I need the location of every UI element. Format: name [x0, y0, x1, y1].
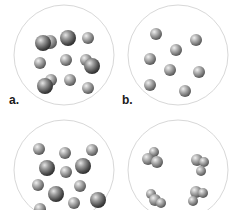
panel-label-a: a.: [9, 94, 19, 106]
atom-sphere: [193, 66, 205, 78]
atom-particle: [34, 57, 46, 69]
atom-sphere: [33, 143, 45, 155]
atom-sphere: [60, 166, 72, 178]
atom-particle: [193, 66, 205, 78]
particle-diagram-figure: [0, 0, 230, 210]
molecule-particle: [146, 189, 166, 208]
atom-sphere: [60, 30, 76, 46]
atom-sphere: [170, 44, 182, 56]
atom-sphere: [188, 196, 198, 206]
atom-sphere: [144, 79, 156, 91]
atom-sphere: [34, 203, 46, 210]
atom-large-particle: [60, 30, 76, 46]
atom-large-particle: [90, 192, 106, 208]
atom-sphere: [68, 197, 80, 209]
container-circle: [128, 120, 228, 210]
atom-particle: [179, 85, 191, 97]
atom-sphere: [37, 78, 53, 94]
atom-large-particle: [75, 158, 91, 174]
atom-particle: [82, 82, 94, 94]
atom-sphere: [86, 144, 98, 156]
atom-particle: [150, 28, 162, 40]
molecule-particle: [191, 154, 209, 176]
atom-sphere: [75, 158, 91, 174]
atom-particle: [64, 74, 76, 86]
panel-c: [14, 120, 114, 210]
atom-sphere: [164, 64, 176, 76]
atom-sphere: [64, 74, 76, 86]
panel-label-b: b.: [122, 94, 133, 106]
atom-sphere: [39, 160, 55, 176]
atom-particle: [74, 180, 86, 192]
diatomic-particle: [35, 35, 57, 51]
atom-particle: [60, 54, 72, 66]
atom-particle: [82, 32, 94, 44]
atom-sphere: [198, 188, 208, 198]
atom-particle: [34, 203, 46, 210]
atom-sphere: [59, 147, 71, 159]
atom-sphere: [84, 58, 100, 74]
atom-large-particle: [48, 186, 64, 202]
atom-particle: [144, 79, 156, 91]
atom-sphere: [60, 54, 72, 66]
atom-sphere: [156, 198, 166, 208]
atom-sphere: [151, 156, 163, 168]
molecule-particle: [142, 147, 163, 168]
atom-particle: [32, 179, 44, 191]
atom-sphere: [190, 34, 202, 46]
atom-sphere: [74, 180, 86, 192]
atom-particle: [170, 44, 182, 56]
atom-sphere: [82, 32, 94, 44]
atom-sphere: [90, 192, 106, 208]
atom-sphere: [144, 53, 156, 65]
panel-a: [14, 5, 114, 105]
atom-sphere: [196, 166, 206, 176]
atom-sphere: [48, 186, 64, 202]
atom-particle: [33, 143, 45, 155]
atom-particle: [190, 34, 202, 46]
atom-particle: [144, 53, 156, 65]
atom-particle: [60, 166, 72, 178]
atom-sphere: [150, 28, 162, 40]
atom-particle: [86, 144, 98, 156]
atom-sphere: [199, 157, 209, 167]
atom-sphere: [179, 85, 191, 97]
atom-sphere: [82, 82, 94, 94]
diatomic-particle: [37, 74, 57, 94]
atom-sphere: [32, 179, 44, 191]
diatomic-particle: [80, 54, 100, 74]
atom-particle: [59, 147, 71, 159]
atom-particle: [68, 197, 80, 209]
panel-b: [128, 5, 228, 105]
atom-sphere: [34, 57, 46, 69]
atom-sphere: [35, 35, 51, 51]
panel-d: [128, 120, 228, 210]
atom-particle: [164, 64, 176, 76]
molecule-particle: [188, 186, 208, 206]
atom-large-particle: [39, 160, 55, 176]
